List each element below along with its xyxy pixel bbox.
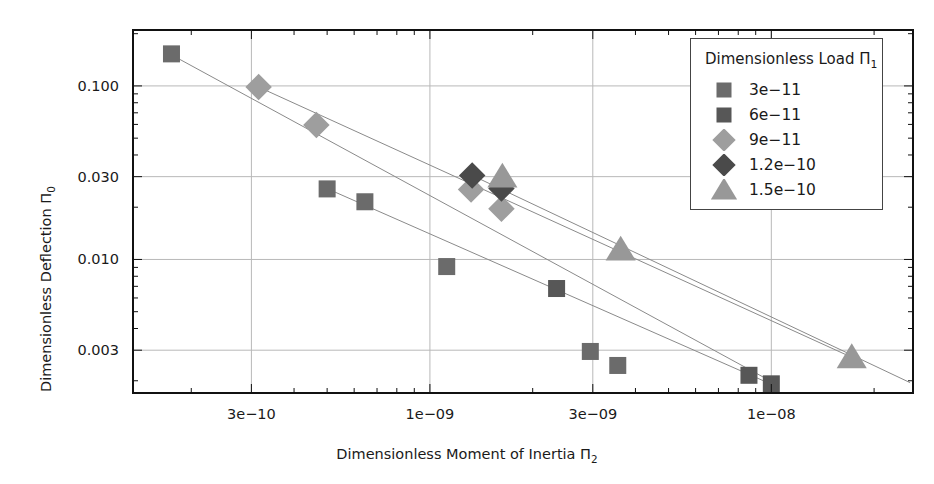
legend-item[interactable]: 3e−11 <box>691 77 882 102</box>
data-point-triangle[interactable] <box>837 343 867 368</box>
legend-marker-diamond <box>711 129 737 151</box>
data-point-triangle[interactable] <box>711 179 737 200</box>
legend-marker-square <box>711 104 737 126</box>
data-point-square[interactable] <box>740 367 757 384</box>
legend-item-label: 1.5e−10 <box>749 181 816 199</box>
legend-item[interactable]: 1.2e−10 <box>691 152 882 177</box>
data-point-square[interactable] <box>582 343 599 360</box>
data-point-triangle[interactable] <box>487 163 517 188</box>
legend-item[interactable]: 1.5e−10 <box>691 177 882 202</box>
x-axis-title-subscript: 2 <box>591 453 598 465</box>
series-3e-11 <box>163 45 626 374</box>
series-9e-11 <box>245 74 514 222</box>
chart-figure: Dimensionless Deflection Π0 Dimensionles… <box>0 0 934 484</box>
legend: Dimensionless Load Π13e−116e−119e−111.2e… <box>690 38 883 210</box>
trend-line <box>171 55 778 386</box>
legend-marker-triangle <box>711 179 737 201</box>
data-point-square[interactable] <box>163 45 180 62</box>
data-point-square[interactable] <box>717 82 732 97</box>
data-point-triangle[interactable] <box>606 236 636 261</box>
legend-title-subscript: 1 <box>871 58 878 71</box>
data-point-diamond[interactable] <box>303 112 330 139</box>
x-tick-label: 3e−09 <box>568 406 617 422</box>
y-tick-label: 0.003 <box>0 342 119 358</box>
x-axis-title: Dimensionless Moment of Inertia Π2 <box>0 446 934 465</box>
data-point-square[interactable] <box>609 357 626 374</box>
legend-marker-diamond <box>711 154 737 176</box>
legend-title-text: Dimensionless Load Π <box>705 50 871 68</box>
x-axis-title-text: Dimensionless Moment of Inertia Π <box>336 446 591 462</box>
x-tick-label: 1e−09 <box>406 406 455 422</box>
y-axis-title: Dimensionless Deflection Π0 <box>38 186 57 392</box>
y-axis-title-subscript: 0 <box>45 186 57 193</box>
data-point-square[interactable] <box>319 180 336 197</box>
data-point-square[interactable] <box>548 280 565 297</box>
legend-item-label: 1.2e−10 <box>749 156 816 174</box>
legend-item-label: 3e−11 <box>749 81 801 99</box>
data-point-square[interactable] <box>356 193 373 210</box>
legend-marker-square <box>711 79 737 101</box>
data-point-diamond[interactable] <box>245 74 272 101</box>
data-point-square[interactable] <box>717 107 732 122</box>
y-tick-label: 0.010 <box>0 251 119 267</box>
legend-item[interactable]: 9e−11 <box>691 127 882 152</box>
x-tick-label: 1e−08 <box>747 406 796 422</box>
y-axis-title-text: Dimensionless Deflection Π <box>38 193 54 392</box>
legend-title: Dimensionless Load Π1 <box>691 39 882 77</box>
data-point-square[interactable] <box>438 258 455 275</box>
legend-item-label: 9e−11 <box>749 131 801 149</box>
data-point-diamond[interactable] <box>712 154 735 176</box>
legend-item[interactable]: 6e−11 <box>691 102 882 127</box>
series-6e-11 <box>548 280 780 392</box>
legend-item-label: 6e−11 <box>749 106 801 124</box>
y-tick-label: 0.030 <box>0 169 119 185</box>
data-point-diamond[interactable] <box>712 129 735 151</box>
y-tick-label: 0.100 <box>0 78 119 94</box>
x-tick-label: 3e−10 <box>227 406 276 422</box>
